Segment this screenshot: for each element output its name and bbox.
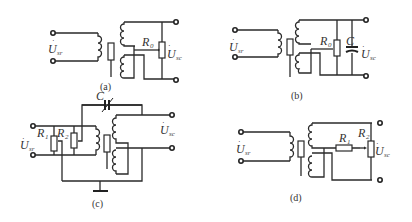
secondary-coil-lower: [121, 46, 134, 78]
primary-coil: [98, 33, 102, 61]
caption-c: (c): [92, 198, 103, 210]
svg-text:R: R: [338, 131, 347, 145]
svg-text:R: R: [36, 126, 45, 140]
svg-text:sr: sr: [245, 149, 251, 157]
input-terminal-top: [31, 124, 35, 128]
output-terminal-bottom: [378, 178, 382, 182]
lower-return-wire: [299, 53, 364, 75]
svg-text:R: R: [56, 126, 65, 140]
output-terminal-bottom: [174, 78, 178, 82]
circuit-figure: · U sr R 0 · U sc (a) · U sr R 0 C: [0, 0, 412, 222]
core-plunger: [104, 135, 110, 152]
svg-text:sc: sc: [384, 151, 391, 159]
svg-text:2: 2: [65, 133, 69, 141]
secondary-coil-lower: [113, 150, 116, 174]
svg-text:0: 0: [150, 42, 154, 50]
core-plunger: [108, 43, 114, 60]
output-terminal-top: [174, 20, 178, 24]
output-terminal-top: [378, 121, 382, 125]
lower-return-wire: [312, 153, 372, 180]
svg-text:1: 1: [45, 133, 49, 141]
secondary-coil-upper: [121, 22, 135, 46]
svg-text:sr: sr: [238, 47, 244, 55]
input-terminal-bottom: [239, 159, 243, 163]
input-terminal-top: [239, 130, 243, 134]
panel-c: C R 1 R 2 · U sr · U sc (c): [20, 89, 176, 210]
core-plunger: [298, 141, 304, 157]
svg-text:1: 1: [347, 138, 351, 146]
output-terminal-bottom: [170, 146, 174, 150]
input-terminal-top: [233, 28, 237, 32]
svg-text:sc: sc: [169, 130, 176, 138]
panel-d: · U sr R 1 R 2 · U sc (d): [236, 121, 391, 204]
svg-text:R: R: [319, 34, 328, 48]
panel-a: · U sr R 0 · U sc (a): [48, 20, 183, 93]
svg-text:C: C: [96, 89, 105, 103]
svg-text:R: R: [357, 126, 366, 140]
secondary-coil-upper: [309, 123, 325, 148]
input-terminal-bottom: [51, 59, 55, 63]
output-sub: sc: [176, 54, 183, 62]
core-plunger: [287, 39, 293, 55]
caption-d: (d): [290, 192, 302, 204]
svg-text:sc: sc: [370, 54, 377, 62]
panel-b: · U sr R 0 C · U sc (b): [229, 18, 377, 102]
caption-b: (b): [291, 90, 303, 102]
r0-label: R: [141, 35, 150, 49]
secondary-coil-upper: [296, 20, 312, 44]
resistor-r0: [334, 40, 340, 56]
primary-coil: [278, 30, 282, 57]
secondary-coil-upper: [113, 115, 128, 174]
input-sub: sr: [57, 49, 63, 57]
primary-coil: [96, 126, 100, 155]
primary-coil: [290, 132, 294, 161]
output-terminal-bottom: [364, 74, 368, 78]
svg-text:sr: sr: [29, 145, 35, 153]
resistor-r2: [71, 133, 77, 148]
input-terminal-top: [51, 31, 55, 35]
r1-wiper: [58, 141, 62, 181]
capacitor-leads: [82, 105, 142, 115]
output-terminal-top: [170, 113, 174, 117]
input-terminal-bottom: [233, 55, 237, 59]
resistor-r2: [368, 141, 374, 157]
svg-text:2: 2: [366, 133, 370, 141]
svg-text:C: C: [346, 34, 355, 48]
svg-text:0: 0: [328, 41, 332, 49]
input-terminal-bottom: [31, 153, 35, 157]
output-terminal-top: [364, 18, 368, 22]
